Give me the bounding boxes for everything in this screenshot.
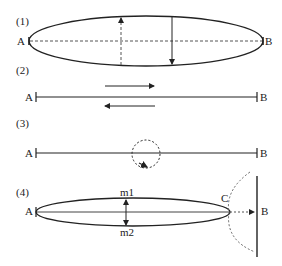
panel-2-point-b: B [260, 91, 267, 103]
panel-1-point-a: A [17, 35, 25, 47]
rotation-arrow [139, 163, 147, 167]
dashed-circle [132, 140, 160, 168]
point-m2: m2 [120, 226, 134, 238]
panel-1-label: (1) [16, 15, 29, 28]
point-c: C [221, 192, 228, 204]
panel-3: (3) A B [16, 117, 267, 168]
diagram-canvas: (1) A B (2) A B (3) A B (4) A B m1 m2 [0, 0, 282, 266]
panel-4: (4) A B m1 m2 C [16, 172, 268, 257]
panel-2-label: (2) [16, 64, 29, 77]
panel-1-point-b: B [265, 35, 272, 47]
point-m1: m1 [120, 186, 134, 198]
panel-1: (1) A B [16, 15, 272, 66]
panel-3-label: (3) [16, 117, 29, 130]
panel-4-label: (4) [16, 186, 29, 199]
panel-2: (2) A B [16, 64, 267, 106]
panel-2-point-a: A [25, 91, 33, 103]
panel-3-point-b: B [260, 147, 267, 159]
panel-3-point-a: A [25, 147, 33, 159]
panel-4-point-b: B [261, 205, 268, 217]
panel-4-point-a: A [25, 205, 33, 217]
